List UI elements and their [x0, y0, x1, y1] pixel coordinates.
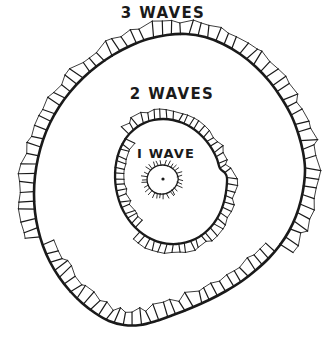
hatch-tick	[20, 181, 35, 183]
hatch-tick	[89, 58, 96, 67]
hatch-tick	[196, 239, 198, 247]
hatch-marks-layer	[18, 20, 320, 325]
hatch-tick	[305, 155, 316, 159]
hatch-tick	[64, 276, 75, 284]
hatch-tick	[144, 172, 148, 174]
hatch-tick	[294, 221, 308, 231]
hatch-tick	[194, 121, 199, 129]
hatch-tick	[172, 244, 173, 252]
hatch-tick	[130, 30, 136, 44]
hatch-tick	[216, 153, 223, 157]
hatch-tick	[298, 128, 311, 132]
hatch-tick	[287, 102, 297, 107]
hatch-tick	[184, 243, 185, 253]
wavefront-canvas: 3 WAVES 2 WAVES I WAVE	[0, 0, 326, 341]
hatch-tick	[185, 292, 193, 306]
hatch-tick	[177, 185, 183, 187]
hatch-tick	[131, 217, 137, 224]
hatch-tick	[141, 112, 144, 122]
hatch-tick	[222, 207, 231, 212]
hatch-tick	[227, 177, 237, 178]
hatch-tick	[106, 41, 113, 56]
source-point-dot	[161, 177, 164, 180]
hatch-tick	[139, 29, 144, 40]
hatch-tick	[62, 85, 71, 92]
hatch-tick	[273, 76, 286, 85]
hatch-tick	[260, 249, 268, 258]
hatch-tick	[210, 142, 217, 147]
hatch-tick	[216, 27, 221, 41]
hatch-tick	[247, 49, 258, 58]
hatch-tick	[106, 310, 113, 319]
wavefront-diagram: 3 WAVES 2 WAVES I WAVE	[0, 0, 326, 341]
hatch-tick	[224, 202, 234, 205]
hatch-tick	[214, 224, 223, 229]
hatch-tick	[191, 242, 195, 251]
hatch-tick	[39, 115, 51, 121]
hatch-tick	[303, 186, 316, 188]
hatch-tick	[98, 302, 107, 316]
hatch-tick	[70, 285, 82, 292]
label-3-waves: 3 WAVES	[121, 4, 206, 22]
hatch-tick	[232, 37, 237, 50]
label-1-wave: I WAVE	[137, 146, 195, 161]
hatch-tick	[214, 145, 223, 152]
hatch-tick	[146, 311, 151, 322]
hatch-tick	[224, 33, 229, 44]
hatch-tick	[60, 266, 72, 277]
hatch-tick	[116, 184, 124, 185]
hatch-tick	[135, 220, 142, 227]
hatch-tick	[146, 167, 151, 170]
hatch-tick	[254, 255, 262, 265]
hatch-tick	[227, 190, 235, 192]
hatch-tick	[266, 243, 275, 251]
hatch-tick	[116, 161, 125, 164]
hatch-tick	[305, 168, 321, 171]
hatch-tick	[90, 301, 100, 310]
hatch-tick	[83, 292, 94, 304]
hatch-tick	[179, 179, 183, 180]
hatch-tick	[189, 118, 194, 126]
hatch-tick	[145, 188, 149, 192]
hatch-tick	[234, 271, 240, 282]
hatch-tick	[24, 228, 37, 233]
hatch-tick	[261, 62, 270, 72]
hatch-tick	[43, 109, 56, 114]
hatch-tick	[119, 201, 130, 202]
hatch-tick	[227, 184, 237, 186]
hatch-tick	[219, 281, 225, 291]
hatch-tick	[166, 194, 168, 198]
hatch-tick	[189, 20, 193, 34]
hatch-tick	[152, 21, 153, 37]
hatch-tick	[302, 195, 314, 199]
hatch-tick	[65, 75, 77, 84]
hatch-tick	[177, 172, 182, 173]
hatch-tick	[153, 304, 159, 319]
hatch-tick	[300, 140, 317, 141]
hatch-tick	[286, 237, 298, 246]
hatch-tick	[20, 192, 33, 193]
hatch-tick	[43, 240, 54, 245]
hatch-tick	[240, 268, 248, 277]
hatch-tick	[32, 136, 44, 138]
hatch-tick	[164, 244, 167, 253]
hatch-tick	[156, 161, 158, 165]
hatch-tick	[205, 232, 212, 240]
hatch-tick	[298, 213, 310, 219]
wavefront-curves-layer	[34, 34, 305, 326]
source-point-layer	[161, 177, 164, 180]
hatch-tick	[300, 204, 314, 210]
hatch-tick	[141, 176, 147, 177]
hatch-tick	[280, 244, 293, 253]
hatch-tick	[131, 118, 138, 126]
hatch-tick	[48, 97, 60, 105]
hatch-tick	[154, 109, 155, 119]
hatch-tick	[118, 194, 126, 197]
hatch-tick	[121, 37, 128, 47]
hatch-tick	[199, 126, 205, 133]
hatch-tick	[153, 193, 155, 198]
hatch-tick	[210, 228, 217, 236]
hatch-tick	[158, 242, 162, 252]
hatch-tick	[204, 288, 210, 300]
hatch-tick	[198, 23, 201, 35]
